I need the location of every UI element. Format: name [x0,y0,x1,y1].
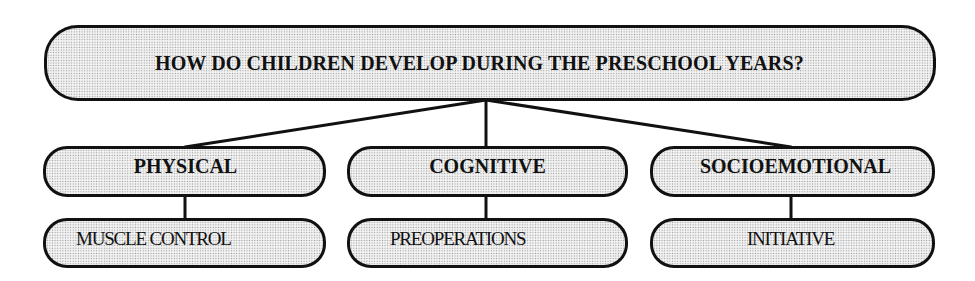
subtopic-label-initiative: INITIATIVE [747,228,834,250]
root-question-label: HOW DO CHILDREN DEVELOP DURING THE PRESC… [155,52,804,75]
connector-root-to-physical [185,100,486,147]
root-question-node: HOW DO CHILDREN DEVELOP DURING THE PRESC… [44,25,936,101]
category-node-cognitive: COGNITIVE [347,146,628,197]
category-label-cognitive: COGNITIVE [429,155,546,178]
subtopic-node-initiative: INITIATIVE [650,218,935,268]
subtopic-label-preoperations: PREOPERATIONS [390,228,525,250]
subtopic-label-muscle-control: MUSCLE CONTROL [76,228,231,250]
subtopic-node-muscle-control: MUSCLE CONTROL [43,218,326,268]
category-node-physical: PHYSICAL [43,146,326,197]
category-node-socioemotional: SOCIOEMOTIONAL [650,146,935,197]
category-label-socioemotional: SOCIOEMOTIONAL [700,155,891,178]
subtopic-node-preoperations: PREOPERATIONS [347,218,628,268]
connector-root-to-socioemotional [486,100,791,147]
category-label-physical: PHYSICAL [134,155,237,178]
